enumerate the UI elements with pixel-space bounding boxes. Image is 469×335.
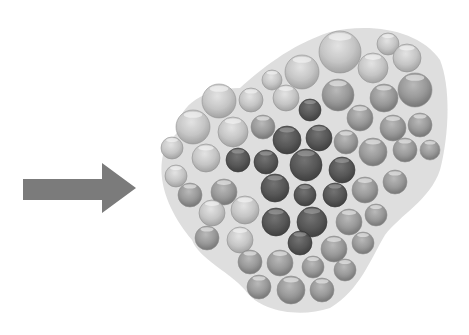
sphere-highlight — [297, 151, 315, 157]
sphere-highlight — [170, 166, 182, 170]
sphere-highlight — [210, 86, 229, 92]
sphere-highlight — [267, 175, 282, 180]
sphere-highlight — [365, 139, 380, 144]
sphere-highlight — [233, 228, 247, 233]
sphere-highlight — [357, 233, 369, 237]
sphere-highlight — [184, 112, 203, 118]
sphere-highlight — [166, 138, 178, 142]
figure — [0, 0, 469, 335]
sphere-highlight — [386, 116, 400, 121]
sphere-highlight — [279, 86, 293, 91]
sphere-highlight — [256, 116, 269, 120]
sphere-highlight — [267, 71, 278, 75]
sphere-highlight — [353, 106, 367, 111]
sphere-highlight — [425, 141, 436, 145]
sphere-highlight — [273, 251, 287, 256]
sphere-highlight — [312, 126, 326, 131]
sphere-highlight — [342, 210, 356, 215]
sphere-highlight — [339, 260, 351, 264]
sphere-highlight — [399, 45, 414, 50]
sphere-highlight — [376, 85, 391, 90]
sphere-highlight — [200, 227, 213, 231]
sphere-highlight — [225, 119, 242, 124]
sphere-highlight — [183, 184, 196, 188]
sphere-highlight — [237, 197, 252, 202]
sphere-highlight — [388, 171, 401, 175]
sphere-highlight — [328, 184, 341, 188]
sphere-cluster-icon — [161, 28, 448, 313]
diagram-canvas — [0, 0, 469, 335]
sphere-highlight — [315, 279, 328, 283]
sphere-highlight — [304, 209, 321, 214]
sphere-highlight — [370, 205, 382, 209]
sphere-highlight — [358, 178, 372, 183]
sphere-highlight — [299, 185, 311, 189]
sphere-highlight — [328, 33, 351, 41]
sphere-highlight — [243, 251, 256, 255]
sphere-highlight — [268, 209, 283, 214]
sphere-highlight — [244, 89, 257, 93]
sphere-highlight — [293, 57, 312, 63]
sphere-highlight — [327, 237, 341, 242]
right-arrow-icon — [23, 163, 136, 213]
sphere-highlight — [365, 55, 382, 60]
sphere-highlight — [382, 34, 394, 38]
sphere-highlight — [283, 277, 298, 282]
sphere-highlight — [339, 131, 352, 135]
sphere-highlight — [335, 158, 349, 163]
sphere-highlight — [413, 114, 426, 118]
sphere-highlight — [279, 127, 294, 132]
sphere-highlight — [293, 232, 306, 236]
sphere-highlight — [252, 276, 265, 280]
sphere-highlight — [398, 139, 411, 143]
sphere-highlight — [307, 257, 319, 261]
sphere-highlight — [406, 75, 425, 81]
sphere-highlight — [304, 100, 316, 104]
sphere-highlight — [231, 149, 244, 153]
arrow-shape — [23, 163, 136, 213]
sphere-highlight — [205, 201, 219, 206]
sphere-highlight — [259, 151, 272, 155]
sphere-highlight — [217, 180, 231, 185]
sphere-highlight — [198, 145, 213, 150]
sphere-highlight — [329, 81, 347, 87]
